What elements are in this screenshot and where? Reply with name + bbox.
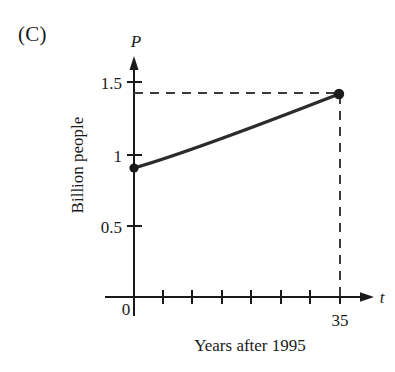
y-tick-label-0.5: 0.5 — [101, 218, 122, 237]
chart-plot: P t 1.5 1 0.5 0 35 — [0, 0, 395, 372]
figure-container: (C) P t 1.5 1 0.5 0 35 — [0, 0, 395, 372]
y-axis-title: Billion people — [68, 80, 88, 250]
y-axis-symbol: P — [130, 32, 141, 51]
x-axis-arrow-icon — [360, 292, 374, 301]
y-tick-label-1.5: 1.5 — [101, 74, 122, 93]
x-tick-label-35: 35 — [332, 311, 349, 330]
x-axis-symbol: t — [380, 288, 386, 307]
y-axis-arrow-icon — [130, 56, 139, 70]
data-point-end — [334, 89, 344, 99]
origin-label: 0 — [122, 300, 131, 319]
y-tick-label-1: 1 — [114, 147, 123, 166]
population-curve — [134, 94, 339, 168]
data-point-start — [129, 163, 138, 172]
x-axis-caption: Years after 1995 — [160, 336, 340, 356]
